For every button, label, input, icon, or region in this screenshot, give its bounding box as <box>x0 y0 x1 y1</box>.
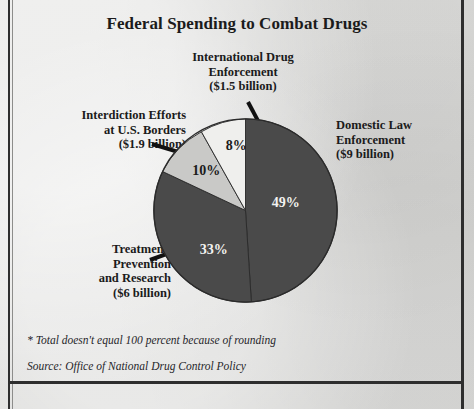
chart-title: Federal Spending to Combat Drugs <box>0 14 474 34</box>
source-line: Source: Office of National Drug Control … <box>27 360 246 372</box>
frame-rule-right <box>461 0 464 409</box>
slice-percent-domestic: 49% <box>272 195 300 210</box>
label-domestic-law-enforcement: Domestic Law Enforcement ($9 billion) <box>336 118 462 162</box>
pie-chart: 49% 33% 10% 8% <box>152 117 339 304</box>
footnote-rounding: * Total doesn't equal 100 percent becaus… <box>27 334 276 346</box>
label-international-drug-enforcement: International Drug Enforcement ($1.5 bil… <box>168 50 318 94</box>
pie-slice-domestic-law-enforcement <box>246 119 338 302</box>
frame-rule-bottom <box>8 381 464 384</box>
slice-percent-interdiction: 10% <box>192 163 220 178</box>
frame-rule-left <box>8 0 10 409</box>
frame-rule-left-inner <box>12 0 13 409</box>
label-amount: ($9 billion) <box>336 147 462 162</box>
label-amount: ($6 billion) <box>26 286 171 301</box>
label-line: Domestic Law <box>336 118 412 132</box>
pie-svg: 49% 33% 10% 8% <box>152 117 339 304</box>
label-line: Enforcement <box>336 133 405 147</box>
label-line: International Drug <box>192 50 294 64</box>
label-treatment-prevention-research: Treatment, Prevention and Research ($6 b… <box>26 242 171 300</box>
label-line: Enforcement <box>208 65 277 79</box>
label-amount: ($1.5 billion) <box>168 79 318 94</box>
slice-percent-treatment: 33% <box>200 242 228 257</box>
chart-figure: Federal Spending to Combat Drugs Interna… <box>0 0 474 409</box>
slice-percent-international: 8% <box>226 138 247 153</box>
